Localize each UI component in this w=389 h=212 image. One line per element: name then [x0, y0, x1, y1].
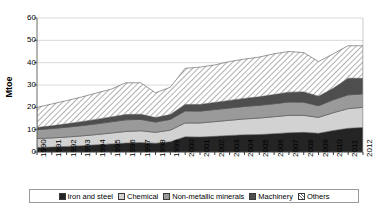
- x-tick-label: 2002: [218, 139, 226, 157]
- y-tick-label: 60: [20, 14, 36, 22]
- x-tick-label: 2006: [277, 139, 285, 157]
- stacked-area-bands: [37, 46, 363, 152]
- legend-item[interactable]: Machinery: [249, 192, 293, 201]
- x-tick-label: 2004: [247, 139, 255, 157]
- plot-area: [0, 0, 389, 212]
- y-axis-tick-labels: 0102030405060: [18, 0, 36, 212]
- y-axis-title-label: Mtoe: [4, 62, 14, 112]
- y-tick-label: 40: [20, 59, 36, 67]
- x-tick-label: 2003: [233, 139, 241, 157]
- legend-item[interactable]: Non-metallic minerals: [163, 192, 244, 201]
- x-tick-label: 1998: [159, 139, 167, 157]
- legend-item[interactable]: Others: [298, 192, 330, 201]
- machinery-swatch: [249, 193, 256, 200]
- x-tick-label: 1990: [40, 139, 48, 157]
- legend-label: Machinery: [258, 192, 293, 201]
- x-tick-label: 1993: [84, 139, 92, 157]
- y-tick-label: 50: [20, 36, 36, 44]
- x-tick-label: 2005: [262, 139, 270, 157]
- legend-label: Non-metallic minerals: [172, 192, 244, 201]
- y-tick-label: 30: [20, 81, 36, 89]
- chemical-swatch: [118, 193, 125, 200]
- x-tick-label: 1992: [70, 139, 78, 157]
- legend-label: Chemical: [127, 192, 158, 201]
- y-axis-title: Mtoe: [0, 60, 18, 120]
- x-tick-label: 2011: [351, 140, 359, 157]
- x-tick-label: 2007: [292, 139, 300, 157]
- x-tick-label: 2008: [307, 139, 315, 157]
- y-tick-label: 20: [20, 103, 36, 111]
- x-tick-label: 2009: [322, 139, 330, 157]
- x-tick-label: 1991: [55, 139, 63, 157]
- legend-item[interactable]: Iron and steel: [59, 192, 113, 201]
- x-tick-label: 1996: [129, 139, 137, 157]
- x-tick-label: 1994: [99, 139, 107, 157]
- chart-legend: Iron and steel Chemical Non-metallic min…: [29, 189, 359, 203]
- non-metallic-minerals-swatch: [163, 193, 170, 200]
- x-tick-label: 2012: [366, 139, 374, 157]
- chart-container: Mtoe 0102030405060 199019911992199319941…: [0, 0, 389, 212]
- x-tick-label: 2010: [336, 139, 344, 157]
- x-tick-label: 2001: [203, 139, 211, 157]
- others-swatch: [298, 193, 305, 200]
- x-tick-label: 1997: [144, 139, 152, 157]
- legend-label: Others: [307, 192, 330, 201]
- legend-item[interactable]: Chemical: [118, 192, 158, 201]
- x-tick-label: 2000: [188, 139, 196, 157]
- x-tick-label: 1995: [114, 139, 122, 157]
- iron-and-steel-swatch: [59, 193, 66, 200]
- x-tick-label: 1999: [173, 139, 181, 157]
- legend-label: Iron and steel: [68, 192, 113, 201]
- y-tick-label: 0: [20, 148, 36, 156]
- y-tick-label: 10: [20, 126, 36, 134]
